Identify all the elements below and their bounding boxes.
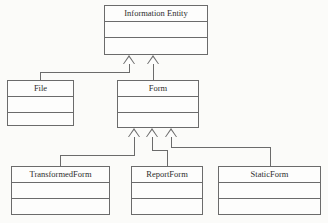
edge-staticform-drop (270, 147, 271, 167)
class-name-staticform: StaticForm (219, 167, 320, 183)
edge-file-elbow (40, 72, 130, 73)
class-attributes-form (118, 97, 198, 113)
edge-reportform-drop (167, 150, 168, 167)
class-box-staticform[interactable]: StaticForm (218, 166, 321, 215)
class-name-file: File (8, 81, 73, 97)
class-name-form: Form (118, 81, 198, 97)
class-attributes-file (8, 97, 73, 113)
edge-staticform-riser (171, 137, 172, 147)
edge-staticform-elbow (171, 147, 271, 148)
edge-form-riser (153, 64, 154, 81)
class-box-reportform[interactable]: ReportForm (131, 166, 203, 215)
class-box-file[interactable]: File (7, 80, 74, 126)
hollow-triangle-fill (166, 130, 176, 137)
hollow-triangle-fill (124, 57, 134, 64)
hollow-triangle-fill (147, 130, 157, 137)
class-box-form[interactable]: Form (117, 80, 199, 128)
class-attributes-information-entity (105, 22, 207, 38)
class-name-transformedform: TransformedForm (12, 167, 109, 183)
hollow-triangle-fill (129, 130, 139, 137)
class-box-information-entity[interactable]: Information Entity (104, 5, 208, 55)
uml-class-diagram: Information Entity File Form Transformed… (0, 0, 328, 223)
class-attributes-staticform (219, 183, 320, 199)
class-box-transformedform[interactable]: TransformedForm (11, 166, 110, 215)
class-attributes-reportform (132, 183, 202, 199)
class-name-reportform: ReportForm (132, 167, 202, 183)
edge-reportform-elbow (152, 150, 168, 151)
class-attributes-transformedform (12, 183, 109, 199)
edge-transformedform-elbow (60, 155, 135, 156)
class-name-information-entity: Information Entity (105, 6, 207, 22)
edge-transformedform-riser (134, 137, 135, 155)
hollow-triangle-fill (148, 57, 158, 64)
edge-reportform-riser (152, 137, 153, 150)
edge-file-riser (129, 64, 130, 72)
